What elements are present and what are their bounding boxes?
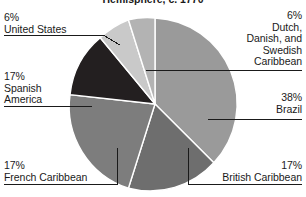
callout-percent-dutch-danish-swedish: 6% — [247, 10, 303, 22]
callout-label-spanish-america: 17% Spanish America — [4, 71, 42, 106]
callout-name-spanish-america-line2: America — [4, 94, 42, 106]
callout-percent-french-caribbean: 17% — [4, 160, 87, 172]
callout-percent-spanish-america: 17% — [4, 71, 42, 83]
callout-name-united-states: United States — [4, 24, 66, 36]
chart-container: Hemisphere, c. 1770 — [0, 0, 306, 197]
callout-name-british-caribbean: British Caribbean — [222, 172, 302, 184]
callout-label-brazil: 38% Brazil — [276, 92, 302, 115]
callout-label-french-caribbean: 17% French Caribbean — [4, 160, 87, 183]
callout-name-brazil: Brazil — [276, 104, 302, 116]
callout-label-dutch-danish-swedish-caribbean: 6% Dutch, Danish, and Swedish Caribbean — [247, 10, 303, 68]
callout-percent-british-caribbean: 17% — [222, 160, 302, 172]
callout-label-british-caribbean: 17% British Caribbean — [222, 160, 302, 183]
callout-name-french-caribbean: French Caribbean — [4, 172, 87, 184]
pie-slices — [69, 18, 237, 191]
callout-label-united-states: 6% United States — [4, 12, 66, 35]
callout-percent-brazil: 38% — [276, 92, 302, 104]
callout-percent-united-states: 6% — [4, 12, 66, 24]
callout-name-dutch-danish-line4: Caribbean — [247, 56, 303, 68]
